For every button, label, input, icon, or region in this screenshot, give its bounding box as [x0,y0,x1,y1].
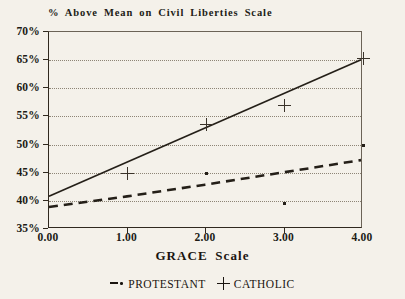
x-axis-tick-mark [127,228,128,233]
y-axis-tick-label: 45% [0,166,40,178]
legend-label-catholic: CATHOLIC [234,278,295,290]
y-axis-tick-label: 60% [0,81,40,93]
legend-item-protestant: PROTESTANT [110,278,206,290]
data-point-markers [49,32,361,227]
chart-figure: % Above Mean on Civil Liberties Scale 35… [0,0,405,299]
x-axis-tick-mark [205,228,206,233]
x-axis-tick-label: 0.00 [18,231,78,243]
y-axis-tick-label: 70% [0,25,40,37]
y-axis-tick-mark [43,59,48,60]
plus-data-point [357,52,370,65]
plus-marker-icon [217,277,230,290]
x-axis-title: GRACE Scale [0,248,405,264]
plus-data-point [278,99,291,112]
y-axis-tick-mark [43,200,48,201]
y-axis-tick-mark [43,228,48,229]
legend-label-protestant: PROTESTANT [128,278,206,290]
x-axis-tick-label: 4.00 [332,231,392,243]
dash-dot-marker-icon [110,279,124,288]
chart-legend: PROTESTANT CATHOLIC [0,277,405,290]
y-axis-tick-mark [43,87,48,88]
y-axis-tick-label: 50% [0,138,40,150]
x-axis-tick-mark [284,228,285,233]
dot-data-point [283,202,286,205]
y-axis-tick-label: 65% [0,53,40,65]
dot-data-point [205,172,208,175]
legend-item-catholic: CATHOLIC [217,277,295,290]
y-axis-tick-label: 40% [0,194,40,206]
y-axis-tick-mark [43,31,48,32]
y-axis-tick-mark [43,172,48,173]
chart-title: % Above Mean on Civil Liberties Scale [48,7,368,18]
y-axis-tick-mark [43,115,48,116]
plot-area [48,31,362,228]
dot-data-point [362,144,365,147]
y-axis-tick-label: 55% [0,109,40,121]
plus-data-point [200,118,213,131]
plus-data-point [121,167,134,180]
y-axis-tick-mark [43,144,48,145]
